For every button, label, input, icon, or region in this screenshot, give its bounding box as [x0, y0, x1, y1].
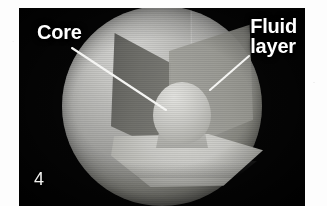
figure-panel: Core Fluid layer 4	[19, 8, 305, 206]
figure-number: 4	[34, 169, 44, 190]
label-core: Core	[37, 22, 82, 42]
label-fluid-layer: Fluid layer	[250, 16, 297, 57]
inner-core-sphere	[153, 82, 211, 144]
scanned-figure-page: Core Fluid layer 4	[0, 0, 327, 206]
